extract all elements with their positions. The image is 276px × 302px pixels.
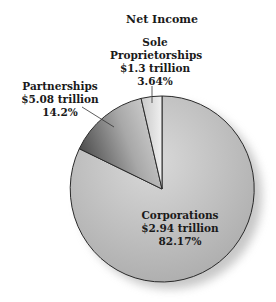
- label-partnerships: Partnerships $5.08 trillion 14.2%: [18, 80, 102, 119]
- label-sole-line2: Proprietorships: [110, 49, 200, 62]
- label-corporations: Corporations $2.94 trillion 82.17%: [140, 209, 220, 248]
- label-corporations-value: $2.94 trillion: [140, 222, 220, 235]
- label-sole-value: $1.3 trillion: [110, 62, 200, 75]
- label-sole-line1: Sole: [110, 36, 200, 49]
- chart-title: Net Income: [0, 13, 276, 26]
- label-partnerships-pct: 14.2%: [18, 106, 102, 119]
- label-partnerships-name: Partnerships: [18, 80, 102, 93]
- label-corporations-name: Corporations: [140, 209, 220, 222]
- label-corporations-pct: 82.17%: [140, 235, 220, 248]
- label-partnerships-value: $5.08 trillion: [18, 93, 102, 106]
- label-sole-proprietorships: Sole Proprietorships $1.3 trillion 3.64%: [110, 36, 200, 88]
- label-sole-pct: 3.64%: [110, 75, 200, 88]
